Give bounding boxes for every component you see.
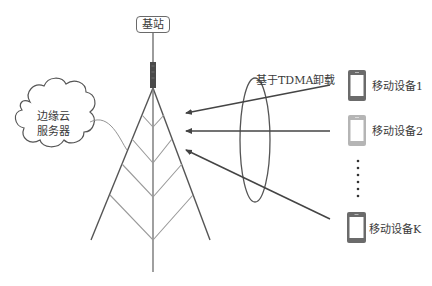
mobile-device-2-icon (348, 115, 366, 146)
base-station-label: 基站 (136, 16, 170, 33)
cloud-cable (90, 120, 127, 150)
tower-icon (91, 88, 210, 272)
device-k-label: 移动设备K (369, 224, 421, 235)
edge-cloud-label: 边缘云 服务器 (32, 109, 74, 139)
diagram-canvas (0, 0, 432, 286)
uplink-arrow-k (186, 150, 330, 219)
device-2-label: 移动设备2 (372, 126, 423, 137)
device-1-label: 移动设备1 (372, 81, 423, 92)
uplink-arrow-1 (186, 85, 330, 113)
mobile-device-k-icon (347, 212, 366, 243)
mobile-device-1-icon (348, 70, 366, 101)
edge-cloud-label-line1: 边缘云 (32, 109, 74, 124)
offload-label: 基于TDMA卸载 (256, 75, 335, 86)
ellipsis-dots (357, 160, 360, 198)
edge-cloud-label-line2: 服务器 (32, 124, 74, 139)
